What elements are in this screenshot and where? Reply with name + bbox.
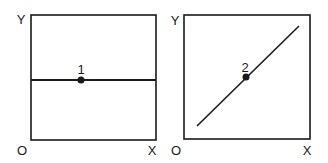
panel-1-y-axis-label: Y [17, 12, 26, 27]
panel-2-y-axis-label: Y [171, 13, 180, 28]
panel-2: 2 Y O X [171, 13, 312, 158]
panel-1-x-axis-label: X [148, 143, 157, 158]
diagram-canvas: 1 Y O X 2 Y O X [0, 0, 328, 163]
panel-1-frame [31, 15, 156, 140]
panel-1-point [78, 77, 85, 84]
panel-2-point-label: 2 [241, 60, 248, 75]
panel-1-origin-label: O [17, 143, 27, 158]
panel-2-origin-label: O [171, 143, 181, 158]
panel-1: 1 Y O X [17, 12, 157, 158]
panel-1-point-label: 1 [77, 62, 84, 77]
panel-2-x-axis-label: X [303, 143, 312, 158]
